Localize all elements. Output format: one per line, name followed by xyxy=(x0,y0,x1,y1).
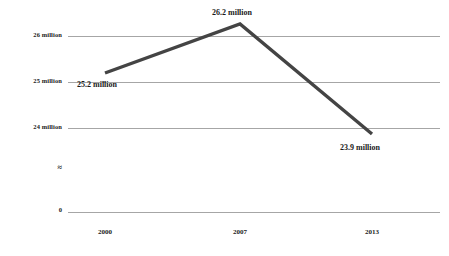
data-label-2013: 23.9 million xyxy=(340,143,380,152)
series-polyline xyxy=(105,24,372,134)
plot-area: 26 million 25 million 24 million ≈ 0 25.… xyxy=(0,0,449,256)
data-label-2000: 25.2 million xyxy=(77,80,117,89)
y-axis-tick-zero-label: 0 xyxy=(59,206,62,213)
gridline-24-million xyxy=(68,128,440,129)
gridline-zero xyxy=(68,212,440,213)
y-axis-tick-24-million: 24 million xyxy=(0,123,62,133)
y-axis-tick-25-million-label: 25 million xyxy=(33,77,62,84)
y-axis-tick-26-million-label: 26 million xyxy=(33,31,62,38)
data-label-2007: 26.2 million xyxy=(212,8,252,17)
line-chart: 26 million 25 million 24 million ≈ 0 25.… xyxy=(0,0,449,256)
y-axis-tick-26-million: 26 million xyxy=(0,31,62,41)
y-axis-tick-zero: 0 xyxy=(0,206,62,216)
y-axis-tick-24-million-label: 24 million xyxy=(33,123,62,130)
x-axis-label-2013: 2013 xyxy=(342,228,402,236)
axis-break-symbol: ≈ xyxy=(0,163,62,172)
x-axis-label-2007: 2007 xyxy=(210,228,270,236)
y-axis-tick-25-million: 25 million xyxy=(0,77,62,87)
gridline-26-million xyxy=(68,36,440,37)
gridline-25-million xyxy=(68,82,440,83)
x-axis-label-2000: 2000 xyxy=(75,228,135,236)
